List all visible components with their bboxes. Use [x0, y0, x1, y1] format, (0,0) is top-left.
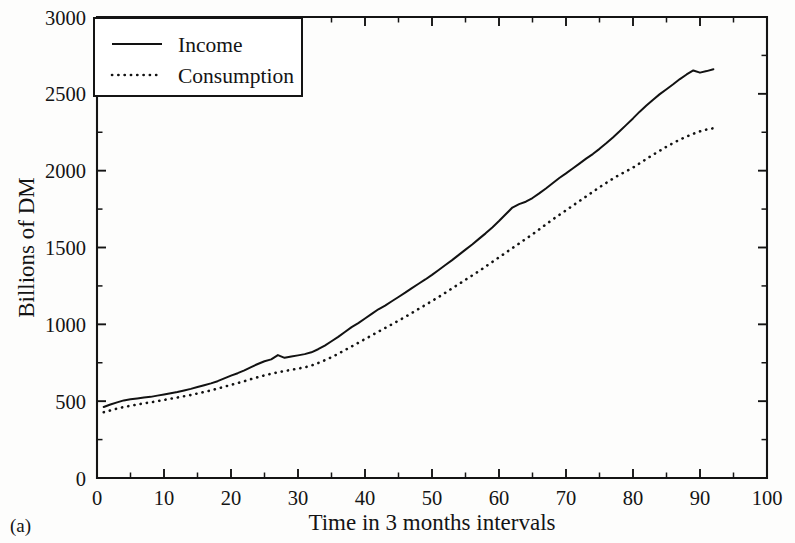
x-tick-label: 70 — [556, 487, 577, 509]
x-tick-label: 30 — [288, 487, 309, 509]
x-tick-label: 0 — [92, 487, 102, 509]
y-tick-label: 500 — [55, 391, 86, 413]
legend-label-consumption: Consumption — [178, 64, 294, 88]
y-tick-label: 3000 — [45, 7, 86, 29]
chart-legend: IncomeConsumption — [94, 18, 302, 96]
x-tick-label: 100 — [752, 487, 783, 509]
x-tick-label: 80 — [623, 487, 644, 509]
series-line-consumption — [104, 128, 714, 412]
y-tick-label: 2000 — [45, 160, 86, 182]
x-axis-title: Time in 3 months intervals — [308, 510, 555, 535]
y-tick-label: 2500 — [45, 83, 86, 105]
x-tick-label: 60 — [489, 487, 510, 509]
income-consumption-line-chart: 0102030405060708090100050010001500200025… — [0, 0, 795, 543]
x-tick-label: 50 — [422, 487, 443, 509]
data-series — [104, 69, 714, 412]
figure-panel: 0102030405060708090100050010001500200025… — [0, 0, 795, 543]
legend-label-income: Income — [178, 33, 242, 57]
panel-label: (a) — [10, 515, 31, 537]
y-tick-label: 1500 — [45, 237, 86, 259]
x-tick-label: 90 — [690, 487, 711, 509]
x-tick-label: 10 — [154, 487, 175, 509]
x-tick-label: 40 — [355, 487, 376, 509]
y-tick-label: 1000 — [45, 314, 86, 336]
series-line-income — [104, 69, 714, 407]
y-axis-title: Billions of DM — [14, 177, 39, 318]
x-tick-label: 20 — [221, 487, 242, 509]
y-tick-label: 0 — [76, 468, 86, 490]
